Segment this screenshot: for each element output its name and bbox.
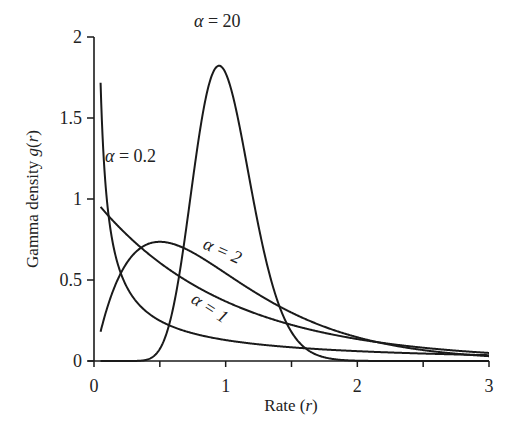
y-tick-label: 0.5 bbox=[60, 270, 83, 290]
y-tick-label: 0 bbox=[73, 351, 82, 371]
curve-alpha-1 bbox=[101, 207, 489, 353]
curves bbox=[101, 66, 489, 361]
x-tick-label: 1 bbox=[221, 376, 230, 396]
curve-alpha-20 bbox=[101, 66, 489, 361]
label-alpha-0.2: α = 0.2 bbox=[105, 146, 156, 166]
label-alpha-20: α = 20 bbox=[194, 11, 241, 31]
x-axis-title: Rate (r) bbox=[264, 396, 317, 415]
y-tick-label: 1 bbox=[73, 189, 82, 209]
axes: 0123 00.511.52 bbox=[60, 27, 494, 396]
y-axis-title: Gamma density g(r) bbox=[23, 130, 42, 268]
x-tick-label: 3 bbox=[485, 376, 494, 396]
x-tick-label: 2 bbox=[353, 376, 362, 396]
label-alpha-2: α = 2 bbox=[200, 233, 244, 267]
gamma-density-chart: 0123 00.511.52 α = 20 α = 0.2 α = 2 α = … bbox=[0, 0, 518, 439]
y-tick-label: 2 bbox=[73, 27, 82, 47]
x-axis-ticks: 0123 bbox=[90, 361, 494, 396]
curve-alpha-2 bbox=[101, 242, 489, 356]
y-tick-label: 1.5 bbox=[60, 108, 83, 128]
y-axis-ticks: 00.511.52 bbox=[60, 27, 95, 371]
x-tick-label: 0 bbox=[90, 376, 99, 396]
